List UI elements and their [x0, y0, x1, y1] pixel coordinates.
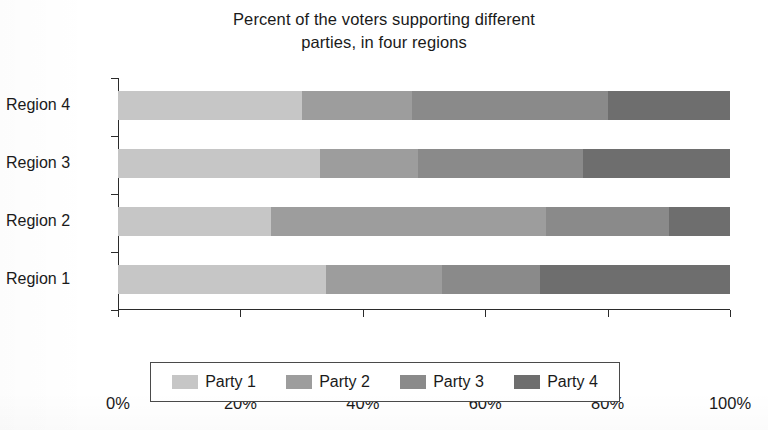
legend-swatch-party-3	[400, 375, 426, 389]
bar-segment-party-2	[271, 207, 546, 236]
y-tick	[111, 194, 118, 195]
legend-item[interactable]: Party 1	[172, 373, 256, 391]
legend-swatch-party-2	[286, 375, 312, 389]
bar-segment-party-3	[412, 91, 608, 120]
legend-swatch-party-1	[172, 375, 198, 389]
legend-item[interactable]: Party 3	[400, 373, 484, 391]
x-tick	[608, 310, 609, 317]
plot-area: Region 4Region 3Region 2Region 1 0%20%40…	[118, 78, 730, 310]
x-tick	[363, 310, 364, 317]
legend-label-party-1: Party 1	[205, 373, 256, 391]
bar-group	[118, 78, 730, 310]
bar-segment-party-1	[118, 149, 320, 178]
bar-segment-party-2	[302, 91, 412, 120]
bar-segment-party-1	[118, 265, 326, 294]
x-tick	[730, 310, 731, 317]
chart-title-line-2: parties, in four regions	[0, 31, 768, 54]
x-tick	[118, 310, 119, 317]
legend-swatch-party-4	[514, 375, 540, 389]
legend-item[interactable]: Party 4	[514, 373, 598, 391]
x-tick	[485, 310, 486, 317]
x-axis-label-100pct: 100%	[709, 394, 751, 413]
bar-segment-party-4	[583, 149, 730, 178]
y-axis-label-region-2: Region 2	[6, 212, 110, 230]
y-axis-label-region-3: Region 3	[6, 154, 110, 172]
bar-region-1	[118, 265, 730, 294]
bar-segment-party-3	[546, 207, 668, 236]
chart-title-line-1: Percent of the voters supporting differe…	[233, 10, 535, 28]
bar-segment-party-2	[320, 149, 418, 178]
legend: Party 1 Party 2 Party 3 Party 4	[150, 362, 620, 402]
y-tick	[111, 310, 118, 311]
legend-label-party-2: Party 2	[319, 373, 370, 391]
bar-segment-party-4	[540, 265, 730, 294]
bar-region-3	[118, 149, 730, 178]
legend-label-party-3: Party 3	[433, 373, 484, 391]
bar-region-4	[118, 91, 730, 120]
y-axis-label-region-4: Region 4	[6, 96, 110, 114]
y-tick	[111, 252, 118, 253]
bar-segment-party-4	[608, 91, 730, 120]
bar-segment-party-2	[326, 265, 442, 294]
legend-label-party-4: Party 4	[547, 373, 598, 391]
y-tick	[111, 136, 118, 137]
bar-segment-party-1	[118, 91, 302, 120]
legend-item[interactable]: Party 2	[286, 373, 370, 391]
bar-segment-party-3	[418, 149, 583, 178]
bar-segment-party-1	[118, 207, 271, 236]
bar-segment-party-3	[442, 265, 540, 294]
chart-title: Percent of the voters supporting differe…	[0, 8, 768, 54]
x-tick	[240, 310, 241, 317]
y-axis-label-region-1: Region 1	[6, 270, 110, 288]
x-axis-label-0pct: 0%	[106, 394, 130, 413]
bar-segment-party-4	[669, 207, 730, 236]
chart-container: Percent of the voters supporting differe…	[0, 0, 768, 430]
y-tick	[111, 78, 118, 79]
bar-region-2	[118, 207, 730, 236]
